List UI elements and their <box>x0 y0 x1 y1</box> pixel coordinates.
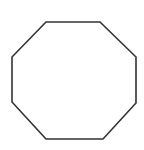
octagon-outline <box>12 22 136 139</box>
octagon-figure <box>0 0 144 150</box>
drawing-canvas <box>0 0 144 150</box>
